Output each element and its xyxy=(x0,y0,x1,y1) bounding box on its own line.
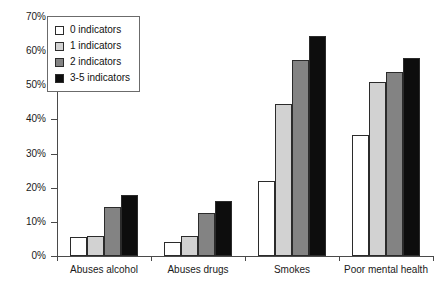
legend-swatch-icon xyxy=(55,58,64,67)
y-axis-tick xyxy=(51,222,57,223)
legend-swatch-icon xyxy=(55,74,64,83)
y-axis-tick xyxy=(51,154,57,155)
y-axis-tick-label: 20% xyxy=(2,183,46,193)
x-axis-category-label: Smokes xyxy=(274,264,310,275)
x-axis-category-label: Abuses drugs xyxy=(167,264,228,275)
legend-swatch-icon xyxy=(55,42,64,51)
legend-item-label: 3-5 indicators xyxy=(70,73,130,83)
legend-item-label: 1 indicators xyxy=(70,41,121,51)
x-axis-tick xyxy=(433,256,434,261)
y-axis-tick-label: 70% xyxy=(2,12,46,22)
y-axis-tick xyxy=(51,188,57,189)
bar xyxy=(369,82,386,256)
legend-item: 0 indicators xyxy=(55,22,130,38)
bar-chart: 0%10%20%30%40%50%60%70% Abuses alcoholAb… xyxy=(0,0,438,288)
bar xyxy=(104,207,121,257)
x-axis-category-label: Poor mental health xyxy=(344,264,428,275)
chart-legend: 0 indicators1 indicators2 indicators3-5 … xyxy=(47,16,140,92)
bar xyxy=(87,236,104,256)
x-axis-category-label: Abuses alcohol xyxy=(70,264,138,275)
bar xyxy=(215,201,232,256)
y-axis-tick-label: 0% xyxy=(2,251,46,261)
bar xyxy=(309,36,326,256)
y-axis-tick-label: 50% xyxy=(2,80,46,90)
x-axis-tick xyxy=(57,256,58,261)
y-axis-tick-label: 30% xyxy=(2,149,46,159)
legend-swatch-icon xyxy=(55,26,64,35)
bar xyxy=(386,72,403,256)
bar xyxy=(352,135,369,256)
y-axis-tick-label: 60% xyxy=(2,46,46,56)
bar xyxy=(258,181,275,256)
y-axis-tick xyxy=(51,119,57,120)
legend-item: 2 indicators xyxy=(55,54,130,70)
legend-item-label: 2 indicators xyxy=(70,57,121,67)
bar xyxy=(164,242,181,256)
y-axis-tick-label: 10% xyxy=(2,217,46,227)
legend-item: 1 indicators xyxy=(55,38,130,54)
bar xyxy=(198,213,215,256)
bar xyxy=(275,104,292,256)
bar xyxy=(121,195,138,256)
x-axis-tick xyxy=(245,256,246,261)
legend-item: 3-5 indicators xyxy=(55,70,130,86)
legend-item-label: 0 indicators xyxy=(70,25,121,35)
bar xyxy=(70,237,87,256)
y-axis-tick-label: 40% xyxy=(2,114,46,124)
x-axis-tick xyxy=(151,256,152,261)
x-axis-tick xyxy=(339,256,340,261)
bar xyxy=(292,60,309,256)
bar xyxy=(403,58,420,256)
bar xyxy=(181,236,198,256)
